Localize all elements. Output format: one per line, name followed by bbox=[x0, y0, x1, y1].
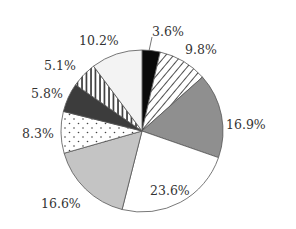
slice-label-23-6: 23.6% bbox=[150, 183, 190, 198]
slice-label-9-8: 9.8% bbox=[185, 42, 217, 57]
pie-chart: 3.6% 9.8% 16.9% 23.6% 16.6% 8.3% 5.8% 5.… bbox=[0, 0, 296, 229]
slice-label-3-6: 3.6% bbox=[152, 24, 184, 39]
leader-line bbox=[149, 37, 152, 51]
slice-label-5-8: 5.8% bbox=[31, 86, 63, 101]
slice-label-16-9: 16.9% bbox=[226, 117, 266, 132]
slice-label-5-1: 5.1% bbox=[44, 58, 76, 73]
slice-label-16-6: 16.6% bbox=[41, 196, 81, 211]
pie-slices bbox=[61, 50, 223, 212]
slice-label-10-2: 10.2% bbox=[79, 33, 119, 48]
slice-label-8-3: 8.3% bbox=[22, 126, 54, 141]
